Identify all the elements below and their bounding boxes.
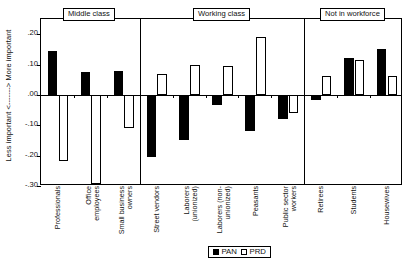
bar-pan-2 bbox=[114, 71, 124, 95]
legend-item-pan: PAN bbox=[213, 248, 237, 256]
bar-prd-4 bbox=[190, 65, 200, 95]
bar-pan-3 bbox=[147, 95, 157, 157]
bar-prd-9 bbox=[355, 60, 365, 95]
bar-prd-1 bbox=[91, 95, 101, 185]
bar-pan-7 bbox=[278, 95, 288, 119]
legend-label: PRD bbox=[249, 248, 265, 256]
bar-pan-0 bbox=[48, 51, 58, 95]
legend: PANPRD bbox=[208, 246, 271, 258]
x-axis-label-line1: Street vendors bbox=[152, 186, 161, 233]
y-axis-tick-mark bbox=[37, 95, 41, 96]
x-axis-label-line1: Housewives bbox=[382, 186, 391, 225]
x-axis-tick-mark bbox=[74, 95, 75, 98]
y-axis-tick-mark bbox=[37, 125, 41, 126]
x-axis-label-line1: Retirees bbox=[316, 186, 325, 213]
x-axis-label-1: Officeemployees bbox=[85, 186, 102, 221]
x-axis-label-line2: (unionized) bbox=[192, 186, 200, 222]
x-axis-label-7: Public sectorworkers bbox=[282, 186, 299, 227]
x-axis-label-6: Peasants bbox=[252, 186, 260, 216]
bar-pan-10 bbox=[377, 49, 387, 95]
group-label-0: Middle class bbox=[63, 8, 115, 21]
x-axis-label-2: Small businessowners bbox=[118, 186, 135, 234]
bar-chart: Less important <-------> More important … bbox=[0, 0, 410, 267]
legend-swatch-prd bbox=[241, 249, 247, 255]
bar-prd-6 bbox=[256, 37, 266, 95]
x-axis-label-8: Retirees bbox=[317, 186, 325, 213]
bar-prd-7 bbox=[289, 95, 299, 113]
x-axis-label-3: Street vendors bbox=[153, 186, 161, 233]
x-axis-label-9: Students bbox=[350, 186, 358, 214]
legend-item-prd: PRD bbox=[241, 248, 266, 256]
x-axis-label-line2: workers bbox=[291, 186, 299, 227]
y-axis-tick-mark bbox=[37, 65, 41, 66]
x-axis-label-10: Housewives bbox=[383, 186, 391, 225]
x-axis-label-line1: Peasants bbox=[251, 186, 260, 216]
bar-pan-6 bbox=[245, 95, 255, 131]
bar-prd-0 bbox=[59, 95, 69, 161]
x-axis-tick-mark bbox=[271, 95, 272, 98]
y-axis-tick-label: -.30 bbox=[16, 181, 38, 189]
group-divider-0 bbox=[140, 19, 141, 184]
bar-prd-3 bbox=[157, 74, 167, 95]
x-axis-label-line2: owners bbox=[126, 186, 134, 234]
x-axis-label-0: Professionals bbox=[54, 186, 62, 229]
bar-pan-5 bbox=[212, 95, 222, 105]
x-axis-label-line1: Office bbox=[84, 186, 93, 205]
y-axis-tick-label: -.10 bbox=[16, 120, 38, 128]
y-axis-tick-mark bbox=[37, 156, 41, 157]
y-axis-tick-mark bbox=[37, 34, 41, 35]
bar-pan-4 bbox=[179, 95, 189, 140]
bar-pan-8 bbox=[311, 95, 321, 100]
x-axis-label-line1: Students bbox=[349, 186, 358, 214]
bar-prd-5 bbox=[223, 66, 233, 95]
y-axis-tick-label: -.20 bbox=[16, 151, 38, 159]
x-axis-label-line2: unionized) bbox=[225, 186, 233, 233]
bar-pan-1 bbox=[81, 72, 91, 95]
legend-swatch-pan bbox=[213, 249, 219, 255]
group-label-1: Working class bbox=[193, 8, 250, 21]
y-axis-tick-label: .00 bbox=[16, 90, 38, 98]
bar-prd-2 bbox=[124, 95, 134, 128]
x-axis-tick-labels: ProfessionalsOfficeemployeesSmall busine… bbox=[40, 186, 402, 248]
x-axis-tick-mark bbox=[173, 95, 174, 98]
x-axis-tick-mark bbox=[337, 95, 338, 98]
x-axis-tick-mark bbox=[238, 95, 239, 98]
y-axis-tick-label: .20 bbox=[16, 29, 38, 37]
x-axis-label-line2: employees bbox=[93, 186, 101, 221]
x-axis-tick-mark bbox=[370, 95, 371, 98]
x-axis-label-4: Laborers(unionized) bbox=[183, 186, 200, 222]
x-axis-tick-mark bbox=[206, 95, 207, 98]
y-axis-title-text: Less important <-------> More important bbox=[4, 29, 13, 161]
x-axis-tick-mark bbox=[107, 95, 108, 98]
x-axis-label-line1: Professionals bbox=[53, 186, 62, 229]
bar-pan-9 bbox=[344, 58, 354, 95]
group-label-2: Not in workforce bbox=[320, 8, 385, 21]
bar-prd-8 bbox=[322, 76, 332, 95]
plot-area bbox=[40, 18, 402, 185]
bar-prd-10 bbox=[388, 76, 398, 95]
x-axis-label-line1: Small business bbox=[117, 186, 126, 234]
y-axis-tick-labels: .20.10.00-.10-.20-.30 bbox=[14, 0, 38, 190]
legend-label: PAN bbox=[222, 248, 237, 256]
x-axis-label-5: Laborers (non-unionized) bbox=[216, 186, 233, 233]
y-axis-tick-label: .10 bbox=[16, 60, 38, 68]
group-divider-1 bbox=[304, 19, 305, 184]
